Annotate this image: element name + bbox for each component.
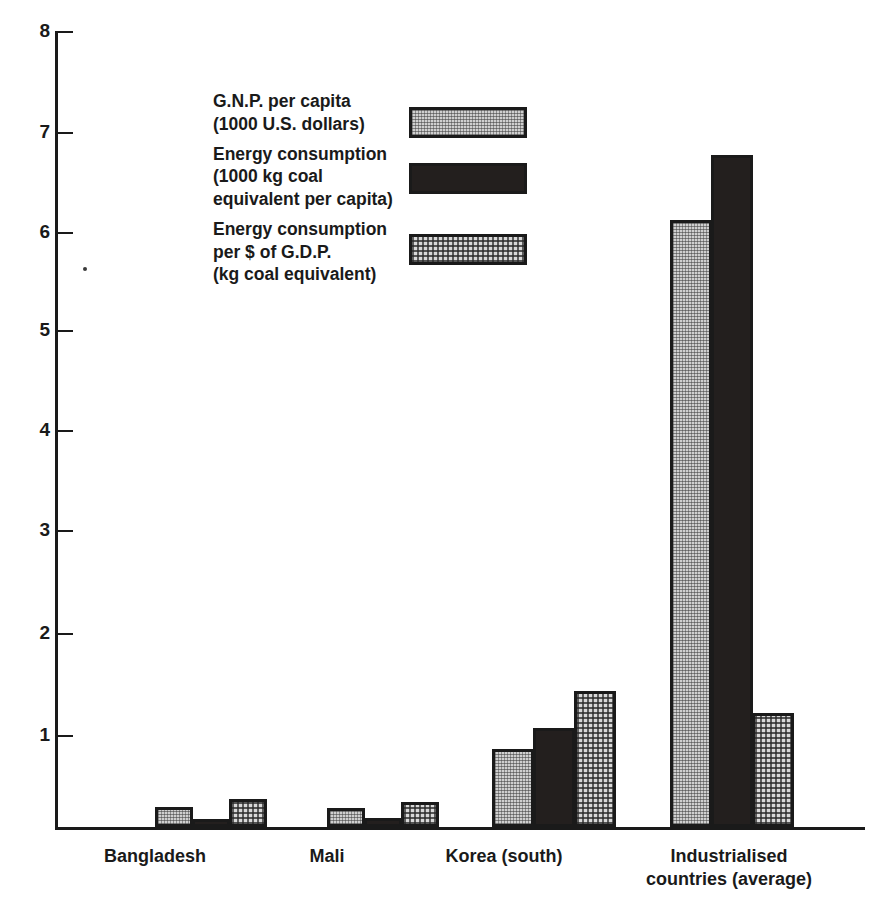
y-tick-label-3: 3 — [16, 520, 50, 539]
legend-item-gnp-per-capita[interactable]: G.N.P. per capita (1000 U.S. dollars) — [213, 90, 523, 136]
x-category-label-korea-line1: Korea (south) — [434, 845, 574, 868]
legend-label-gdp-line2: per $ of G.D.P. — [213, 241, 408, 264]
y-tick-5: 5 — [0, 320, 50, 340]
legend-label-gdp-line3: (kg coal equivalent) — [213, 263, 408, 286]
y-tick-label-6: 6 — [16, 222, 50, 241]
y-tick-4: 4 — [0, 420, 50, 440]
x-category-label-industrialised-line1: Industrialised — [624, 845, 834, 868]
legend-label-energy-line3: equivalent per capita) — [213, 188, 408, 211]
y-tick-3: 3 — [0, 520, 50, 540]
x-category-label-industrialised-line2: countries (average) — [624, 868, 834, 891]
legend-swatch-coarse-checker-icon — [409, 234, 527, 265]
y-tick-label-1: 1 — [16, 725, 50, 744]
bar-korea-gnp-per-capita[interactable] — [492, 749, 534, 827]
legend-swatch-solid-black-icon — [409, 163, 527, 194]
bar-mali-energy-consumption[interactable] — [364, 818, 402, 827]
legend-swatch-fine-stipple-icon — [409, 107, 527, 138]
x-category-label-mali: Mali — [272, 845, 382, 868]
bar-industrialised-energy-consumption[interactable] — [711, 155, 753, 827]
bar-korea-energy-per-gdp[interactable] — [574, 691, 616, 827]
y-tick-2: 2 — [0, 623, 50, 643]
x-category-label-mali-line1: Mali — [272, 845, 382, 868]
legend-label-energy-line1: Energy consumption — [213, 143, 408, 166]
bar-bangladesh-energy-per-gdp[interactable] — [229, 799, 267, 827]
y-tick-label-7: 7 — [16, 122, 50, 141]
legend-label-gnp-line2: (1000 U.S. dollars) — [213, 113, 408, 136]
y-tick-label-8: 8 — [16, 21, 50, 40]
bar-korea-energy-consumption[interactable] — [533, 728, 575, 828]
legend-label-energy-consumption: Energy consumption (1000 kg coal equival… — [213, 143, 408, 211]
bar-mali-energy-per-gdp[interactable] — [401, 802, 439, 827]
x-category-label-bangladesh: Bangladesh — [95, 845, 215, 868]
bar-bangladesh-gnp-per-capita[interactable] — [155, 807, 193, 827]
bar-mali-gnp-per-capita[interactable] — [327, 808, 365, 827]
legend-label-energy-per-gdp: Energy consumption per $ of G.D.P. (kg c… — [213, 218, 408, 286]
legend: G.N.P. per capita (1000 U.S. dollars) En… — [213, 90, 523, 293]
legend-item-energy-consumption[interactable]: Energy consumption (1000 kg coal equival… — [213, 143, 523, 211]
x-axis-line — [55, 827, 865, 830]
legend-label-gdp-line1: Energy consumption — [213, 218, 408, 241]
legend-label-gnp-per-capita: G.N.P. per capita (1000 U.S. dollars) — [213, 90, 408, 136]
legend-label-energy-line2: (1000 kg coal — [213, 165, 408, 188]
bar-group-industrialised-countries — [670, 31, 788, 827]
bar-industrialised-gnp-per-capita[interactable] — [670, 220, 712, 827]
y-tick-1: 1 — [0, 725, 50, 745]
x-category-label-industrialised-countries: Industrialised countries (average) — [624, 845, 834, 890]
legend-item-energy-per-gdp[interactable]: Energy consumption per $ of G.D.P. (kg c… — [213, 218, 523, 286]
bar-chart: 8 7 6 5 4 3 2 1 — [0, 0, 888, 901]
y-tick-label-5: 5 — [16, 320, 50, 339]
y-tick-8: 8 — [0, 21, 50, 41]
y-tick-label-4: 4 — [16, 420, 50, 439]
bar-bangladesh-energy-consumption[interactable] — [192, 819, 230, 827]
bar-industrialised-energy-per-gdp[interactable] — [752, 713, 794, 827]
x-category-label-bangladesh-line1: Bangladesh — [95, 845, 215, 868]
legend-label-gnp-line1: G.N.P. per capita — [213, 90, 408, 113]
y-tick-label-2: 2 — [16, 623, 50, 642]
x-category-label-korea-south: Korea (south) — [434, 845, 574, 868]
y-tick-6: 6 — [0, 222, 50, 242]
y-tick-7: 7 — [0, 122, 50, 142]
